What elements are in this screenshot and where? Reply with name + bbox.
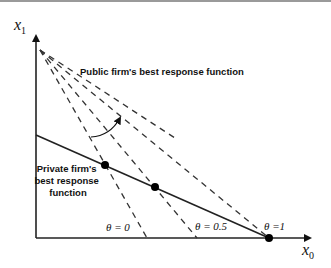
- theta-1-label: θ =1: [264, 220, 285, 232]
- theta-0-label: θ = 0: [106, 221, 130, 233]
- best-response-diagram: x1 x0 Public firm's best response functi…: [0, 0, 331, 268]
- dashed-line-outer: [40, 50, 178, 140]
- x-axis-label: x0: [301, 241, 314, 261]
- theta-0.5-label: θ = 0.5: [195, 220, 228, 232]
- equilibrium-dot-theta-0: [101, 161, 109, 169]
- private-firm-label: Private firm's best response function: [34, 163, 101, 198]
- y-axis-label: x1: [13, 16, 26, 36]
- diagram-frame: x1 x0 Public firm's best response functi…: [0, 0, 331, 268]
- dashed-line-theta-1: [40, 50, 269, 238]
- equilibrium-dot-theta-1: [265, 234, 273, 242]
- public-best-response-lines: [40, 50, 269, 238]
- equilibrium-dot-theta-0.5: [151, 183, 159, 191]
- dashed-line-theta-0.5: [40, 50, 197, 238]
- public-firm-label: Public firm's best response function: [80, 66, 244, 77]
